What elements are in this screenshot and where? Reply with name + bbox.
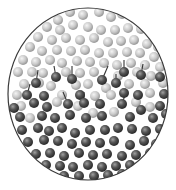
dark-particle	[31, 78, 41, 88]
light-particle	[89, 67, 99, 77]
dark-particle	[83, 160, 93, 170]
dark-particle	[33, 123, 43, 133]
dark-particle	[68, 162, 78, 172]
dark-particle	[55, 161, 65, 171]
dark-particle	[131, 150, 141, 160]
light-particle	[31, 57, 41, 67]
light-particle	[38, 68, 48, 78]
dark-particle	[113, 123, 123, 133]
dark-particle	[70, 128, 80, 138]
light-particle	[75, 35, 85, 45]
light-particle	[65, 7, 75, 17]
dark-particle	[136, 70, 146, 80]
dark-particle	[45, 148, 55, 158]
light-particle	[68, 20, 78, 30]
dark-particle	[67, 139, 77, 149]
light-particle	[146, 71, 156, 81]
dark-particle	[119, 67, 129, 77]
light-particle	[103, 37, 113, 47]
dark-particle	[97, 162, 107, 172]
light-particle	[19, 79, 29, 89]
light-particle	[80, 45, 90, 55]
dark-particle	[97, 75, 107, 85]
dark-particle	[109, 136, 119, 146]
dark-particle	[95, 138, 105, 148]
dark-particle	[117, 99, 127, 109]
light-particle	[37, 46, 47, 56]
dark-particle	[136, 105, 146, 115]
light-particle	[129, 35, 139, 45]
dark-particle	[37, 111, 47, 121]
dark-particle	[125, 140, 135, 150]
dark-particle	[50, 113, 60, 123]
light-particle	[18, 55, 28, 65]
light-particle	[85, 57, 95, 67]
dark-particle	[29, 98, 39, 108]
dark-particle	[81, 113, 91, 123]
light-particle	[149, 52, 159, 62]
dark-particle	[88, 150, 98, 160]
dark-particle	[39, 91, 49, 101]
dark-particle	[125, 112, 135, 122]
dark-particle	[74, 148, 84, 158]
light-particle	[123, 23, 133, 33]
particle-diagram	[0, 0, 176, 190]
light-particle	[110, 25, 120, 35]
dark-particle	[15, 112, 25, 122]
light-particle	[106, 90, 116, 100]
light-particle	[96, 25, 106, 35]
light-particle	[83, 79, 93, 89]
light-particle	[42, 22, 52, 32]
dark-particle	[63, 99, 73, 109]
dark-particle	[141, 126, 151, 136]
light-particle	[13, 67, 23, 77]
dark-particle	[155, 72, 165, 82]
dark-particle	[59, 151, 69, 161]
light-particle	[135, 48, 145, 58]
dark-particle	[127, 124, 137, 134]
light-particle	[106, 12, 116, 22]
light-particle	[66, 46, 76, 56]
particle-field	[9, 7, 171, 181]
dark-particle	[85, 125, 95, 135]
dark-particle	[81, 137, 91, 147]
light-particle	[52, 45, 62, 55]
light-particle	[145, 88, 155, 98]
light-particle	[124, 79, 134, 89]
light-particle	[116, 36, 126, 46]
dark-particle	[111, 78, 121, 88]
light-particle	[27, 67, 37, 77]
dark-particle	[148, 113, 158, 123]
dark-particle	[9, 103, 19, 113]
light-particle	[140, 60, 150, 70]
dark-particle	[39, 135, 49, 145]
light-particle	[126, 58, 136, 68]
dark-particle	[111, 161, 121, 171]
dark-particle	[31, 149, 41, 159]
dark-particle	[22, 90, 32, 100]
light-particle	[89, 33, 99, 43]
dark-particle	[100, 125, 110, 135]
light-particle	[25, 42, 35, 52]
dark-particle	[17, 125, 27, 135]
light-particle	[145, 102, 155, 112]
dark-particle	[117, 151, 127, 161]
light-particle	[78, 10, 88, 20]
dark-particle	[57, 123, 67, 133]
light-particle	[52, 97, 62, 107]
dark-particle	[79, 98, 89, 108]
dark-particle	[65, 110, 75, 120]
light-particle	[83, 22, 93, 32]
light-particle	[109, 107, 119, 117]
light-particle	[55, 25, 65, 35]
light-particle	[72, 56, 82, 66]
light-particle	[94, 48, 104, 58]
dark-particle	[67, 74, 77, 84]
light-particle	[108, 48, 118, 58]
light-particle	[46, 81, 56, 91]
light-particle	[75, 68, 85, 78]
dark-particle	[51, 72, 61, 82]
dark-particle	[133, 90, 143, 100]
dark-particle	[53, 136, 63, 146]
light-particle	[61, 33, 71, 43]
